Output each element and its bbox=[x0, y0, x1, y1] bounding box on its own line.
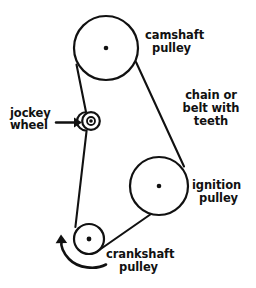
belt-segment-bottom bbox=[99, 214, 152, 251]
label-belt-line1: chain or bbox=[185, 88, 237, 102]
belt-segment-right bbox=[136, 62, 184, 167]
label-belt-line3: teeth bbox=[194, 114, 228, 128]
label-belt-line2: belt with bbox=[183, 101, 240, 115]
belt-segment-left bbox=[75, 65, 86, 228]
label-ignition-line1: ignition bbox=[192, 178, 241, 192]
crankshaft-pulley-hub bbox=[87, 237, 92, 242]
timing-belt-diagram: camshaft pulley chain or belt with teeth… bbox=[0, 0, 256, 288]
label-camshaft-line1: camshaft bbox=[145, 28, 205, 42]
crankshaft-rotation-arrowhead bbox=[56, 235, 68, 244]
diagram-canvas: camshaft pulley chain or belt with teeth… bbox=[0, 0, 256, 288]
label-crankshaft-line1: crankshaft bbox=[106, 247, 175, 261]
label-jockey-line2: wheel bbox=[10, 118, 48, 132]
label-ignition-line2: pulley bbox=[199, 191, 239, 205]
jockey-wheel-hub bbox=[89, 119, 93, 123]
label-camshaft-line2: pulley bbox=[152, 41, 192, 55]
ignition-pulley-hub bbox=[157, 184, 162, 189]
label-crankshaft-line2: pulley bbox=[119, 260, 159, 274]
camshaft-pulley-hub bbox=[104, 46, 109, 51]
